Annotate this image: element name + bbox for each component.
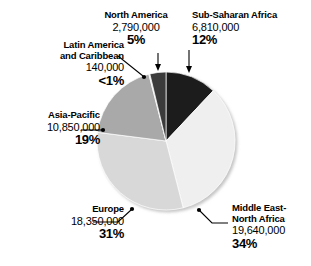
leader-line-middle-east xyxy=(200,211,228,223)
slice-label-latin-america-name-line2: and Caribbean xyxy=(14,51,124,62)
arrowhead-sub-saharan-africa-icon xyxy=(186,66,192,73)
slice-label-latin-america: Latin America and Caribbean 140,000 <1% xyxy=(14,40,124,88)
slice-label-europe: Europe 18,350,000 31% xyxy=(18,204,124,241)
leader-dot-middle-east-icon xyxy=(197,208,201,212)
slice-label-middle-east-value: 19,640,000 xyxy=(232,224,310,236)
leader-dot-asia-pacific-icon xyxy=(101,128,105,132)
arrowhead-north-america-icon xyxy=(155,64,161,71)
pie-slices-group xyxy=(97,72,235,210)
slice-label-middle-east: Middle East- North Africa 19,640,000 34% xyxy=(232,203,310,251)
slice-label-latin-america-value: 140,000 xyxy=(14,61,124,73)
slice-label-europe-percent: 31% xyxy=(18,227,124,242)
slice-label-latin-america-percent: <1% xyxy=(14,74,124,89)
slice-label-asia-pacific-name: Asia-Pacific xyxy=(2,110,100,121)
slice-label-north-america-name: North America xyxy=(88,10,184,21)
slice-label-asia-pacific: Asia-Pacific 10,850,000 19% xyxy=(2,110,100,147)
leader-dot-latin-america-icon xyxy=(142,75,146,79)
slice-label-middle-east-percent: 34% xyxy=(232,237,310,252)
slice-label-europe-name: Europe xyxy=(18,204,124,215)
slice-label-asia-pacific-percent: 19% xyxy=(2,133,100,148)
slice-label-sub-saharan-africa-percent: 12% xyxy=(192,33,304,48)
pie-chart: North America 2,790,000 5% Sub-Saharan A… xyxy=(0,0,311,266)
slice-label-middle-east-name-line2: North Africa xyxy=(232,214,310,225)
slice-label-sub-saharan-africa: Sub-Saharan Africa 6,810,000 12% xyxy=(192,10,304,47)
leader-dot-europe-icon xyxy=(130,207,134,211)
slice-label-sub-saharan-africa-name: Sub-Saharan Africa xyxy=(192,10,304,21)
